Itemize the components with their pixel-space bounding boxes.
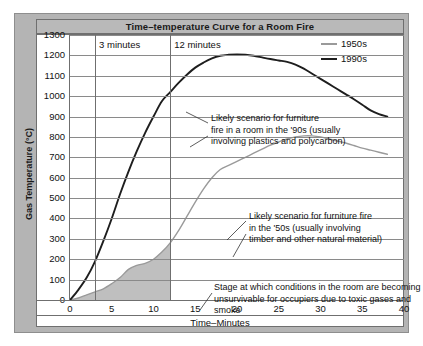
y-tick-label: 700 (49, 152, 65, 162)
vertical-marker-line (170, 35, 171, 300)
annotation-1950s: Likely scenario for furniture fire in th… (249, 211, 423, 246)
y-tick-label: 1000 (44, 91, 65, 101)
marker-label-12-minutes: 12 minutes (174, 39, 220, 50)
marker-label-3-minutes: 3 minutes (99, 39, 140, 50)
x-axis-title: Time–Minutes (37, 317, 403, 328)
y-tick-label: 400 (49, 213, 65, 223)
plot-area (70, 35, 404, 300)
y-tick-label: 800 (49, 132, 65, 142)
gridline (70, 35, 404, 36)
gridline (70, 178, 404, 179)
gridline (70, 280, 404, 281)
legend-item-1950s: 1950s (321, 38, 367, 49)
y-tick-label: 600 (49, 173, 65, 183)
shaded-toxic-gas-area (70, 243, 170, 300)
gridline (70, 198, 404, 199)
series-canvas (70, 35, 404, 300)
y-axis-title: Gas Temperature (°C) (24, 128, 34, 220)
x-tick-label: 15 (190, 303, 201, 314)
annotation-untenable-stage: Stage at which conditions in the room ar… (214, 282, 423, 317)
y-axis-title-container: Gas Temperature (°C) (22, 34, 36, 314)
y-tick-label: 1200 (44, 50, 65, 60)
chart-title: Time–temperature Curve for a Room Fire (126, 21, 314, 32)
y-tick-label: 1300 (44, 30, 65, 40)
plot-card: 0100200300400500600700800900100011001200… (36, 34, 404, 327)
legend-swatch-1950s (321, 43, 337, 45)
gridline (70, 76, 404, 77)
chart-figure: Time–temperature Curve for a Room Fire G… (14, 13, 409, 333)
y-axis-tick-column: 0100200300400500600700800900100011001200… (37, 35, 70, 300)
annotation-1990s: Likely scenario for furniture fire in a … (211, 113, 391, 148)
legend-swatch-1990s (321, 58, 337, 60)
legend-item-1990s: 1990s (321, 53, 367, 64)
gridline (70, 259, 404, 260)
chart-title-bar: Time–temperature Curve for a Room Fire (36, 19, 404, 34)
y-tick-label: 1100 (45, 71, 65, 81)
y-tick-label: 100 (49, 275, 65, 285)
y-tick-label: 900 (49, 112, 65, 122)
legend-label-1950s: 1950s (341, 38, 367, 49)
y-tick-label: 500 (49, 193, 65, 203)
gridline (70, 96, 404, 97)
y-tick-label: 200 (49, 254, 65, 264)
x-tick-label: 5 (109, 303, 114, 314)
legend-label-1990s: 1990s (341, 53, 367, 64)
x-tick-label: 0 (67, 303, 72, 314)
gridline (70, 157, 404, 158)
x-tick-label: 10 (148, 303, 159, 314)
vertical-marker-line (95, 35, 96, 300)
y-tick-label: 300 (49, 234, 65, 244)
